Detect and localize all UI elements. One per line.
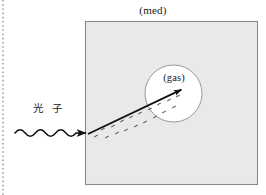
medium-label: (med) — [0, 5, 266, 16]
gas-cavity-label: (gas) — [145, 73, 203, 84]
incident-photon-wave — [15, 130, 76, 136]
photon-label: 光 子 — [16, 104, 82, 115]
physics-diagram-photon-interaction: (med) (gas) 光 子 — [0, 0, 266, 195]
diagram-canvas — [0, 0, 266, 195]
